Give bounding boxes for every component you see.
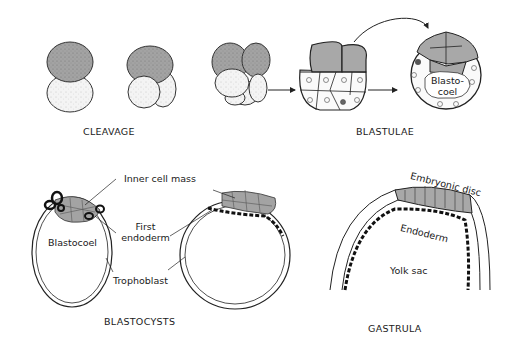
caption-gastrula: GASTRULA bbox=[368, 323, 422, 334]
label-first-endoderm: First endoderm bbox=[118, 221, 173, 243]
label-first-endoderm-line2: endoderm bbox=[118, 232, 173, 243]
cleavage-four-cell bbox=[127, 46, 176, 108]
label-inner-cell-mass: Inner cell mass bbox=[124, 173, 196, 184]
blastocyst-late bbox=[168, 190, 290, 309]
label-first-endoderm-line1: First bbox=[118, 221, 173, 232]
early-blastula bbox=[300, 42, 367, 110]
cleavage-two-cell bbox=[47, 42, 93, 112]
label-blastocoel-top: Blasto- coel bbox=[430, 75, 465, 97]
label-blastocoel-line2: coel bbox=[430, 86, 465, 97]
caption-cleavage: CLEAVAGE bbox=[83, 126, 135, 137]
curved-arrow bbox=[354, 18, 428, 42]
label-yolk-sac: Yolk sac bbox=[390, 265, 428, 276]
label-blastocoel-line1: Blasto- bbox=[430, 75, 465, 86]
caption-blastulae: BLASTULAE bbox=[356, 126, 414, 137]
caption-blastocysts: BLASTOCYSTS bbox=[104, 316, 175, 327]
cleavage-eight-cell bbox=[212, 43, 270, 105]
label-trophoblast: Trophoblast bbox=[113, 275, 168, 286]
label-blastocoel: Blastocoel bbox=[48, 237, 97, 248]
late-blastula bbox=[411, 32, 481, 109]
